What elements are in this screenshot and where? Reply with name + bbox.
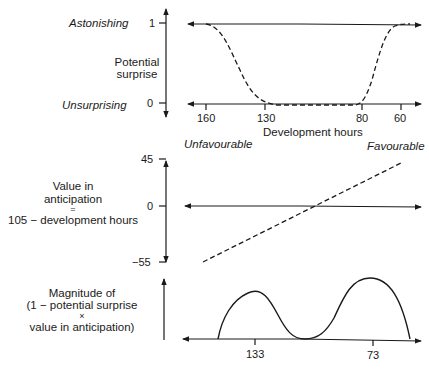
y-tick-45: 45 <box>141 153 153 165</box>
x-tick-73: 73 <box>367 349 379 361</box>
favourable-label: Favourable <box>367 140 425 152</box>
y-tick-0: 0 <box>147 97 153 109</box>
unfavourable-label: Unfavourable <box>184 138 252 150</box>
unsurprising-label: Unsurprising <box>62 99 127 111</box>
magnitude-curve <box>218 278 410 339</box>
x-tick-133: 133 <box>246 348 264 360</box>
astonishing-label: Astonishing <box>69 17 128 29</box>
potential-surprise-curve <box>206 24 410 105</box>
y-tick-1: 1 <box>149 17 155 29</box>
x-tick-80: 80 <box>356 112 368 124</box>
middle-panel-axes <box>159 159 421 262</box>
top-panel-axes <box>159 9 421 117</box>
value-in-anticipation-line <box>203 162 403 262</box>
x-tick-160: 160 <box>197 112 215 124</box>
x-tick-60: 60 <box>394 112 406 124</box>
development-hours-label: Development hours <box>263 126 363 138</box>
y-tick-minus-55: −55 <box>132 256 151 268</box>
magnitude-label: Magnitude of (1 − potential surprise × v… <box>22 287 142 333</box>
x-tick-130: 130 <box>257 112 275 124</box>
potential-surprise-label: Potential surprise <box>112 56 162 80</box>
value-in-anticipation-label: Value in anticipation = 105 − developmen… <box>8 180 138 227</box>
bottom-panel-axes <box>164 279 421 346</box>
y-tick-0-middle: 0 <box>147 200 153 212</box>
